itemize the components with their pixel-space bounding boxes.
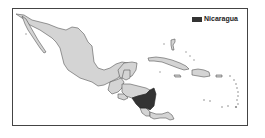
legend: Nicaragua <box>192 15 238 23</box>
island-jamaica <box>174 75 181 77</box>
legend-swatch-nicaragua <box>192 17 202 22</box>
island-hispaniola <box>192 69 210 77</box>
island-cuba <box>148 57 189 70</box>
country-panama <box>150 112 174 120</box>
country-mexico <box>16 14 128 86</box>
island-puerto-rico <box>216 75 222 77</box>
island-bahamas <box>171 39 175 50</box>
legend-label: Nicaragua <box>204 15 238 23</box>
